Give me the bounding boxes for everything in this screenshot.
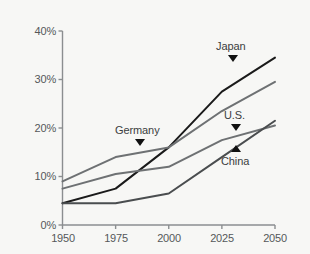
y-tick-label-30: 30%	[26, 73, 56, 85]
us-pointer-icon	[231, 124, 241, 131]
series-line-japan	[63, 58, 276, 204]
x-tick-label-1950: 1950	[45, 232, 81, 244]
y-tick-label-20: 20%	[26, 122, 56, 134]
china-pointer-icon	[231, 145, 241, 152]
x-tick-label-2050: 2050	[257, 232, 293, 244]
series-label-japan: Japan	[216, 40, 245, 52]
x-tick-label-1975: 1975	[98, 232, 134, 244]
y-tick-label-40: 40%	[26, 25, 56, 37]
y-tick-label-10: 10%	[26, 170, 56, 182]
series-label-us: U.S.	[224, 109, 245, 121]
y-tick-label-0: 0%	[26, 219, 56, 231]
germany-pointer-icon	[135, 139, 145, 146]
x-tick-label-2000: 2000	[151, 232, 187, 244]
line-chart: 40% 30% 20% 10% 0% 1950 1975 2000 2025 2…	[0, 0, 310, 254]
series-label-china: China	[221, 155, 249, 167]
japan-pointer-icon	[228, 55, 238, 62]
series-lines	[63, 58, 276, 204]
x-tick-label-2025: 2025	[204, 232, 240, 244]
series-label-germany: Germany	[115, 124, 160, 136]
